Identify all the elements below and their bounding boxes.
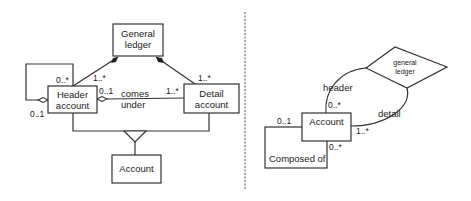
relationship-label: ledger xyxy=(395,68,415,76)
self-aggregation-diamond xyxy=(38,98,48,103)
detail-relationship-arc xyxy=(351,88,408,126)
class-detail-account[interactable]: Detail account xyxy=(184,84,239,113)
association-label: under xyxy=(121,99,145,110)
role-label: header xyxy=(323,82,353,93)
class-general-ledger[interactable]: General ledger xyxy=(113,24,163,56)
relationship-label: Composed of xyxy=(269,153,326,164)
generalization-triangle xyxy=(124,131,146,142)
composition-diamond-right xyxy=(156,57,164,63)
multiplicity-label: 0..1 xyxy=(30,109,44,119)
class-label: Account xyxy=(119,163,154,174)
entity-label: Account xyxy=(309,116,344,127)
multiplicity-label: 0..* xyxy=(56,75,69,85)
comes-under-aggregation-diamond xyxy=(97,97,107,102)
class-label: Header xyxy=(57,89,88,100)
role-label: detail xyxy=(378,108,401,119)
multiplicity-label: 0..1 xyxy=(277,116,291,126)
uml-diagram: General ledger Header account Detail acc… xyxy=(26,24,239,183)
relationship-label: general xyxy=(393,59,417,67)
class-label: General xyxy=(121,28,155,39)
multiplicity-label: 1..* xyxy=(166,86,179,96)
multiplicity-label: 1..* xyxy=(356,126,369,136)
class-label: ledger xyxy=(125,39,151,50)
class-account[interactable]: Account xyxy=(112,155,161,183)
multiplicity-label: 1..* xyxy=(198,73,211,83)
diagram-canvas: General ledger Header account Detail acc… xyxy=(0,0,471,201)
class-header-account[interactable]: Header account xyxy=(48,86,97,113)
multiplicity-label: 0..* xyxy=(329,142,342,152)
class-label: Detail xyxy=(199,88,223,99)
class-label: account xyxy=(195,99,229,110)
er-diagram: Composed of Account general ledger heade… xyxy=(265,47,447,168)
generalization-connector xyxy=(73,113,209,131)
relationship-general-ledger[interactable]: general ledger xyxy=(366,47,447,88)
association-label: comes xyxy=(121,88,149,99)
composition-diamond-left xyxy=(111,57,118,63)
entity-account[interactable]: Account xyxy=(302,113,351,141)
multiplicity-label: 0..1 xyxy=(99,86,113,96)
class-label: account xyxy=(56,100,90,111)
multiplicity-label: 0..* xyxy=(328,100,341,110)
multiplicity-label: 1..* xyxy=(93,73,106,83)
